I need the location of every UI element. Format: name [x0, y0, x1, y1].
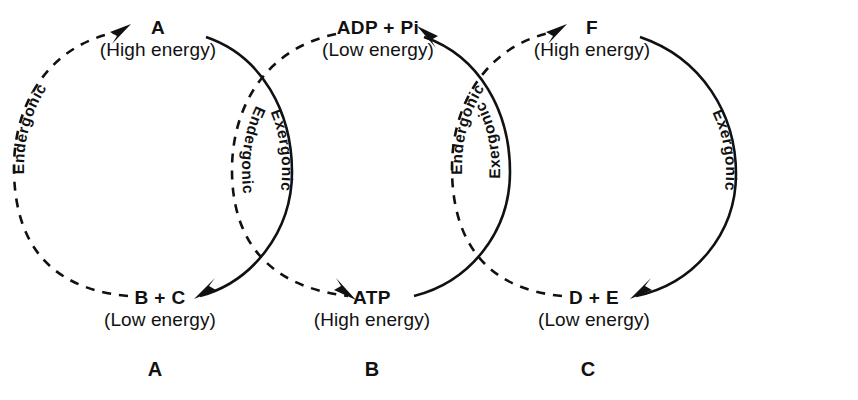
panel-caption-a: A — [148, 358, 162, 381]
panel-b-top-node-energy: (Low energy) — [322, 38, 434, 62]
panel-a-endergonic-label: Endergonic — [10, 80, 50, 174]
panel-b-bottom-node: ATP (High energy) — [314, 288, 430, 332]
panel-c-top-node: F (High energy) — [534, 18, 650, 62]
panel-b-bottom-node-energy: (High energy) — [314, 308, 430, 332]
panel-a-exergonic-label: Exergonic — [268, 107, 296, 193]
panel-c-bottom-node-energy: (Low energy) — [538, 308, 650, 332]
panel-a-top-node-name: A — [100, 18, 216, 38]
panel-a-bottom-node-energy: (Low energy) — [104, 308, 216, 332]
panel-c-bottom-node-name: D + E — [538, 288, 650, 308]
panel-a-endergonic-arc — [14, 32, 128, 296]
panel-c-top-node-name: F — [534, 18, 650, 38]
energy-coupling-figure: Endergonic Exergonic Endergonic Exergoni… — [0, 0, 858, 400]
panel-b-endergonic-label: Endergonic — [239, 104, 269, 195]
panel-c-endergonic-arc — [452, 32, 562, 296]
panel-a-top-node-energy: (High energy) — [100, 38, 216, 62]
panel-a-top-node: A (High energy) — [100, 18, 216, 62]
panel-caption-b: B — [365, 358, 379, 381]
panel-b-top-node-name: ADP + Pi — [322, 18, 434, 38]
panel-c-top-node-energy: (High energy) — [534, 38, 650, 62]
panel-b-top-node: ADP + Pi (Low energy) — [322, 18, 434, 62]
panel-c-exergonic-arc — [636, 37, 736, 296]
panel-a-bottom-node-name: B + C — [104, 288, 216, 308]
panel-b-bottom-node-name: ATP — [314, 288, 430, 308]
panel-b-cycle: Endergonic Exergonic — [232, 26, 510, 300]
panel-caption-c: C — [581, 358, 595, 381]
panel-a-bottom-node: B + C (Low energy) — [104, 288, 216, 332]
panel-c-bottom-node: D + E (Low energy) — [538, 288, 650, 332]
